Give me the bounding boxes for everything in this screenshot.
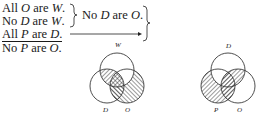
venn1-label-d: D xyxy=(103,106,108,114)
venn2-label-p: P xyxy=(214,106,218,114)
venn1-label-o: O xyxy=(125,106,130,114)
arrowhead xyxy=(138,32,142,36)
venn1-label-w: W xyxy=(115,41,121,49)
venn2-label-d: D xyxy=(226,42,231,50)
diagram-graphics xyxy=(0,0,279,123)
venn2-label-o: O xyxy=(237,106,242,114)
brace-left xyxy=(70,4,77,27)
brace-right xyxy=(143,6,150,41)
